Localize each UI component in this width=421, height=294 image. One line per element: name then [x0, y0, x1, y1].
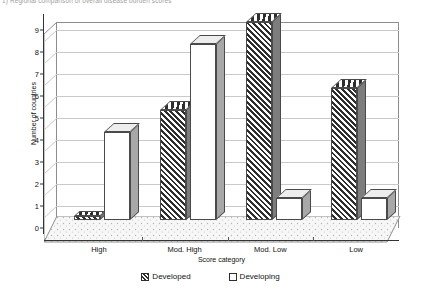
x-axis-line — [44, 240, 399, 241]
legend-label-developing: Developing — [240, 272, 280, 281]
bar-face — [276, 198, 302, 220]
bar-face — [246, 22, 272, 220]
x-axis-title: Score category — [44, 256, 399, 263]
bar-mod-low-developing — [276, 198, 302, 220]
x-tick-label: Mod. Low — [254, 245, 287, 254]
bar-low-developed — [331, 88, 357, 220]
x-tick-label: High — [91, 245, 106, 254]
bar-mod-high-developing — [190, 44, 216, 220]
y-tick-label: 8 — [35, 48, 39, 57]
x-tick-mark — [142, 237, 143, 241]
bar-mod-low-developed — [246, 22, 272, 220]
y-tick-label: 1 — [35, 202, 39, 211]
x-tick-mark — [228, 237, 229, 241]
legend-swatch-developing-icon — [229, 273, 237, 281]
figure-caption: 1) Regional comparison of overall diseas… — [2, 0, 172, 4]
bar-face — [104, 132, 130, 220]
bar-face — [190, 44, 216, 220]
x-tick-mark — [313, 237, 314, 241]
bar-face — [160, 110, 186, 220]
y-tick-label: 2 — [35, 180, 39, 189]
x-tick-label: Low — [349, 245, 363, 254]
bar-face — [331, 88, 357, 220]
y-tick-label: 0 — [35, 224, 39, 233]
bar-low-developing — [361, 198, 387, 220]
bar-side — [130, 124, 139, 220]
legend-swatch-developed-icon — [141, 273, 149, 281]
legend-item-developed: Developed — [141, 272, 190, 281]
bar-group — [56, 22, 399, 228]
bar-high-developing — [104, 132, 130, 220]
bar-high-developed — [74, 216, 100, 220]
bar-face — [74, 216, 100, 220]
legend: Developed Developing — [0, 272, 421, 281]
chart-figure: 1) Regional comparison of overall diseas… — [0, 0, 421, 294]
plot-area — [44, 22, 399, 240]
legend-item-developing: Developing — [229, 272, 280, 281]
x-tick-label: Mod. High — [168, 245, 202, 254]
y-axis: 0123456789 Number of countries — [22, 14, 44, 234]
y-tick-label: 9 — [35, 26, 39, 35]
bar-side — [272, 14, 281, 220]
y-axis-title: Number of countries — [30, 59, 37, 169]
bar-side — [216, 36, 225, 220]
bar-top — [74, 211, 106, 216]
bar-mod-high-developed — [160, 110, 186, 220]
legend-label-developed: Developed — [152, 272, 190, 281]
bar-face — [361, 198, 387, 220]
